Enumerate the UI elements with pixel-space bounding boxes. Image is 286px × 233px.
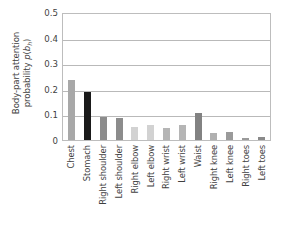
x-label-slot: Right shoulder [95,143,111,231]
x-axis-category-label: Left elbow [146,145,156,187]
bar[interactable] [210,133,217,140]
x-axis-category-label: Left toes [257,145,267,180]
bar-slot [80,14,96,140]
y-axis-tick-label: 0.3 [44,59,58,69]
y-axis-title-line1: Body-part attention [11,31,22,113]
x-axis-category-label: Waist [193,145,203,167]
x-label-slot: Left knee [222,143,238,231]
bar[interactable] [242,138,249,140]
bar-chart-figure: Body-part attention probability p(bh) 0.… [0,0,286,233]
y-axis-tick-label: 0.5 [44,8,58,18]
bar[interactable] [147,125,154,140]
y-axis-title-prefix: probability [22,59,32,106]
x-label-slot: Left elbow [143,143,159,231]
x-label-slot: Right knee [206,143,222,231]
y-axis-title-symbol-b: b [22,45,32,50]
y-axis-title-line2: probability p(bh) [22,31,33,113]
y-axis-tick-label: 0 [53,136,58,146]
x-axis-category-label: Right wrist [161,145,171,189]
x-label-slot: Waist [190,143,206,231]
x-axis-category-label: Left knee [225,145,235,183]
x-axis-category-label: Left wrist [177,145,187,183]
y-axis-title-symbol-p: p [22,54,32,59]
y-axis-title: Body-part attention probability p(bh) [11,31,33,113]
x-axis-category-label: Chest [66,145,76,168]
bar-slot [111,14,127,140]
x-label-slot: Left toes [254,143,270,231]
bar[interactable] [195,113,202,140]
bar-slot [253,14,269,140]
bar[interactable] [131,127,138,140]
plot-area [62,13,271,141]
y-axis-tick-label: 0.4 [44,34,58,44]
x-label-slot: Right toes [238,143,254,231]
y-axis-title-container: Body-part attention probability p(bh) [0,0,44,145]
x-label-slot: Left shoulder [111,143,127,231]
bar[interactable] [258,137,265,140]
bar[interactable] [163,128,170,140]
bar-slot [206,14,222,140]
bar-slot [127,14,143,140]
x-axis-category-label: Right shoulder [98,145,108,205]
x-label-slot: Right wrist [159,143,175,231]
bar-slot [222,14,238,140]
bar-slot [237,14,253,140]
x-axis-category-label: Right toes [241,145,251,187]
x-label-slot: Left wrist [174,143,190,231]
y-axis-tick-labels: 0.50.40.30.20.10 [42,13,60,141]
x-axis-category-labels: ChestStomachRight shoulderLeft shoulderR… [62,143,271,231]
x-axis-category-label: Right elbow [130,145,140,193]
y-axis-tick-label: 0.2 [44,85,58,95]
bar-slot [159,14,175,140]
bar-series [63,14,270,140]
y-axis-tick-label: 0.1 [44,110,58,120]
bar-slot [96,14,112,140]
x-axis-category-label: Right knee [209,145,219,189]
bar-slot [190,14,206,140]
x-axis-category-label: Left shoulder [114,145,124,198]
bar[interactable] [100,117,107,140]
y-axis-title-paren-close: ) [22,38,32,41]
bar-slot [64,14,80,140]
bar[interactable] [226,132,233,140]
x-label-slot: Right elbow [127,143,143,231]
y-axis-title-subscript-h: h [26,42,33,46]
bar[interactable] [179,125,186,140]
bar[interactable] [68,80,75,140]
x-axis-category-label: Stomach [82,145,92,181]
bar-slot [143,14,159,140]
bar-slot [174,14,190,140]
x-label-slot: Chest [63,143,79,231]
x-label-slot: Stomach [79,143,95,231]
bar[interactable] [116,118,123,140]
bar[interactable] [84,92,91,140]
